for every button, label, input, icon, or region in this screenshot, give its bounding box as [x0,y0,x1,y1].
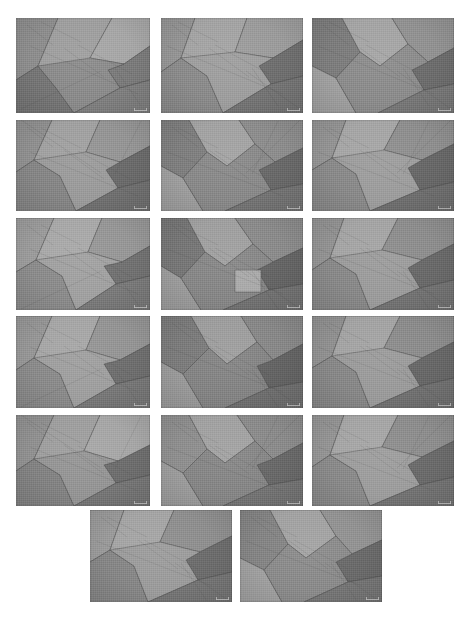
micrograph-tile[interactable] [161,415,303,506]
micrograph-tile[interactable] [16,316,150,408]
grain-structure [161,218,303,310]
grain-structure [16,18,150,113]
micrograph-tile[interactable] [90,510,232,602]
grain-region [235,270,261,292]
micrograph-tile[interactable] [240,510,382,602]
grain-structure [312,218,454,310]
grain-structure [161,415,303,506]
grain-structure [90,510,232,602]
micrograph-tile[interactable] [16,218,150,310]
grain-structure [16,316,150,408]
micrograph-tile[interactable] [161,316,303,408]
micrograph-tile[interactable] [161,218,303,310]
micrograph-tile[interactable] [312,218,454,310]
grain-structure [16,218,150,310]
grain-structure [161,120,303,211]
grain-structure [240,510,382,602]
micrograph-tile[interactable] [16,120,150,211]
grain-structure [312,316,454,408]
micrograph-tile[interactable] [16,415,150,506]
micrograph-tile[interactable] [312,120,454,211]
micrograph-tile[interactable] [312,415,454,506]
micrograph-tile[interactable] [16,18,150,113]
micrograph-tile[interactable] [161,18,303,113]
micrograph-tile[interactable] [312,18,454,113]
grain-structure [161,316,303,408]
grain-structure [312,415,454,506]
micrograph-tile[interactable] [312,316,454,408]
micrograph-panel [0,0,470,619]
grain-structure [16,415,150,506]
grain-structure [161,18,303,113]
grain-structure [16,120,150,211]
grain-structure [312,18,454,113]
grain-structure [312,120,454,211]
micrograph-tile[interactable] [161,120,303,211]
